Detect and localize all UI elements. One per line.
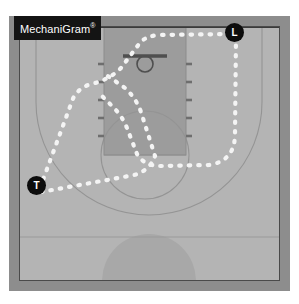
mechanigram-diagram: MechaniGram® L T <box>0 0 299 304</box>
mechanigram-badge: MechaniGram® <box>14 16 101 40</box>
official-token-trail[interactable]: T <box>28 177 45 194</box>
key-paint <box>104 27 186 155</box>
official-token-trail-label: T <box>33 180 39 191</box>
lane-hash-marks-right <box>186 64 192 136</box>
court-markings <box>9 16 290 291</box>
official-token-lead[interactable]: L <box>226 24 243 41</box>
badge-label: MechaniGram <box>20 23 90 35</box>
official-token-lead-label: L <box>231 27 237 38</box>
registered-mark-icon: ® <box>90 22 95 29</box>
lane-hash-marks-left <box>98 64 104 136</box>
center-circle <box>102 234 196 291</box>
